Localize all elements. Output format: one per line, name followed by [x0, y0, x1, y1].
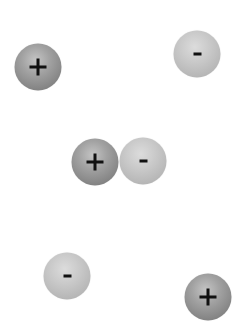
charge-diagram: + - + - - + — [0, 0, 246, 331]
negative-charge-top-right: - — [174, 31, 221, 78]
negative-charge-bottom-left: - — [44, 253, 91, 300]
plus-icon — [87, 154, 104, 171]
minus-icon — [139, 160, 147, 163]
negative-charge-middle: - — [120, 138, 167, 185]
positive-charge-middle: + — [72, 139, 119, 186]
positive-charge-bottom-right: + — [185, 274, 232, 321]
minus-icon — [63, 275, 71, 278]
plus-icon — [200, 289, 217, 306]
plus-icon — [30, 59, 47, 76]
positive-charge-top-left: + — [15, 44, 62, 91]
minus-icon — [193, 53, 201, 56]
